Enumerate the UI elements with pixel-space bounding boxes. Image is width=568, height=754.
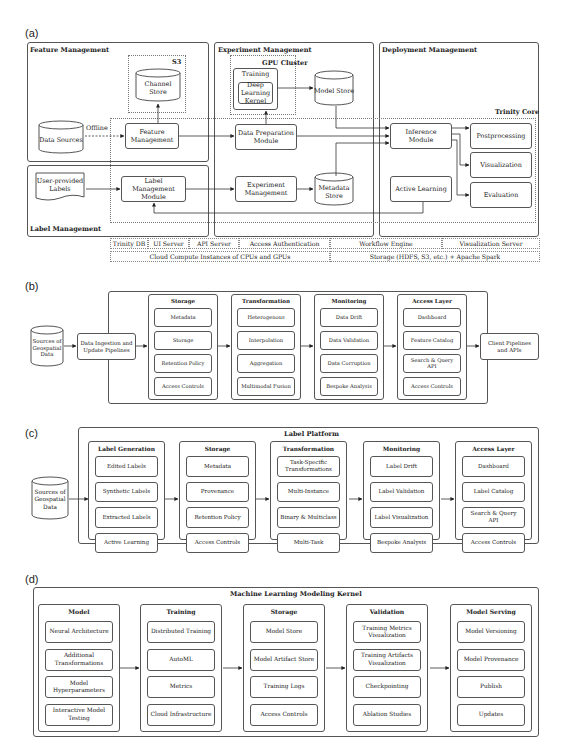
panel-d-connectors (0, 0, 568, 754)
